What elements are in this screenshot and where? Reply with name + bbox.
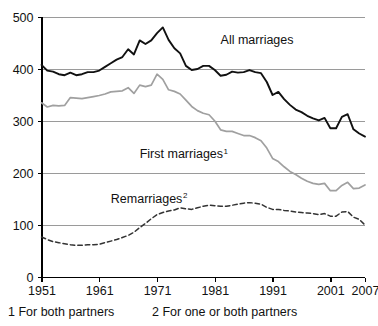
series-label-all-marriages: All marriages: [221, 33, 294, 47]
marriages-line-chart: 0100200300400500 19511961197119811991200…: [0, 0, 378, 326]
series-line-all-marriages: [42, 27, 366, 136]
footnotes: 1 For both partners 2 For one or both pa…: [0, 296, 378, 326]
series-superscript-remarriages: 2: [183, 191, 188, 200]
x-axis: 1951196119711981199120012007: [28, 278, 378, 299]
y-tick-label-300: 300: [13, 115, 34, 129]
footnote-1: 1 For both partners: [8, 305, 114, 319]
series-annotations: All marriagesFirst marriages1Remarriages…: [111, 33, 294, 206]
y-tick-label-400: 400: [13, 63, 34, 77]
series-label-first-marriages: First marriages: [140, 147, 223, 161]
y-axis: 0100200300400500: [13, 11, 42, 285]
series-lines: [42, 27, 366, 245]
y-tick-label-0: 0: [27, 271, 34, 285]
marriages-chart-figure: 0100200300400500 19511961197119811991200…: [0, 0, 378, 326]
y-tick-label-200: 200: [13, 167, 34, 181]
footnote-2: 2 For one or both partners: [152, 305, 297, 319]
y-tick-label-100: 100: [13, 219, 34, 233]
y-tick-label-500: 500: [13, 11, 34, 25]
gridlines: [42, 18, 366, 226]
series-line-remarriages: [42, 203, 366, 246]
series-superscript-first-marriages: 1: [224, 147, 229, 156]
series-label-remarriages: Remarriages: [111, 192, 183, 206]
